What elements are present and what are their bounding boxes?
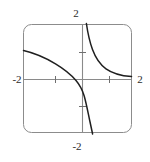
- plot-frame: [24, 25, 132, 133]
- coordinate-plot: 2 -2 2 -2: [0, 0, 150, 162]
- y-top-label: 2: [73, 7, 79, 19]
- x-left-label: -2: [12, 73, 21, 85]
- y-bottom-label: -2: [72, 140, 81, 152]
- graph-figure: 2 -2 2 -2: [0, 0, 150, 162]
- x-right-label: 2: [137, 73, 143, 85]
